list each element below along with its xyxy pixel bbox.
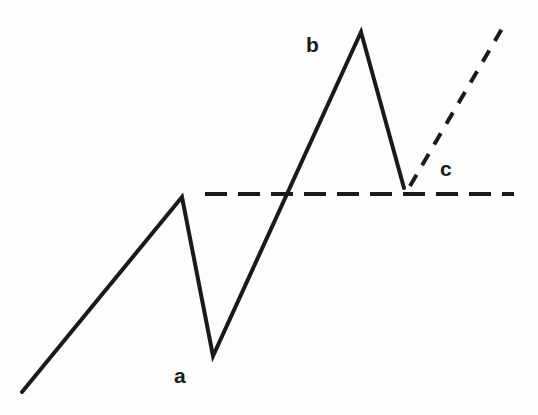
chart-canvas: [0, 0, 538, 415]
chart-figure: a b c: [0, 0, 538, 415]
breakout-label-c: c: [440, 158, 452, 179]
chart-background: [0, 0, 538, 415]
trough-label-a: a: [174, 365, 186, 386]
peak-label-b: b: [306, 34, 319, 55]
